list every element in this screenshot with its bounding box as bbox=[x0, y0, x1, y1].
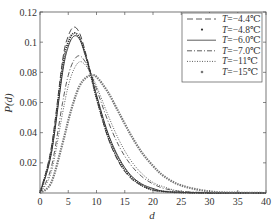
x-tick-label: 0 bbox=[38, 196, 43, 207]
legend-item-label: T=−4.8℃ bbox=[222, 25, 261, 35]
y-tick-label: 0.06 bbox=[20, 97, 38, 108]
x-axis-label: d bbox=[149, 209, 155, 221]
legend-item-label: T=−4.4℃ bbox=[222, 14, 261, 24]
x-tick-label: 35 bbox=[233, 196, 243, 207]
legend-item-label: T=−6.0℃ bbox=[222, 35, 261, 45]
x-tick-label: 40 bbox=[261, 196, 271, 207]
x-tick-label: 10 bbox=[92, 196, 102, 207]
legend-marker-icon bbox=[201, 29, 203, 31]
series-line-5 bbox=[40, 75, 266, 193]
y-tick-label: 0.1 bbox=[25, 37, 38, 48]
legend-marker-icon bbox=[201, 71, 204, 74]
legend: T=−4.4℃T=−4.8℃T=−6.0℃T=−7.0℃T=−11℃T=−15℃ bbox=[182, 13, 262, 82]
legend-item-label: T=−11℃ bbox=[222, 56, 258, 66]
y-tick-label: 0.02 bbox=[20, 157, 38, 168]
y-tick-label: 0.04 bbox=[20, 127, 38, 138]
legend-item-label: T=−15℃ bbox=[222, 67, 259, 77]
chart-canvas: 0510152025303540 0.020.040.060.080.10.12… bbox=[0, 0, 277, 224]
x-tick-label: 25 bbox=[176, 196, 186, 207]
y-axis-label: P(d) bbox=[2, 93, 15, 114]
legend-item-label: T=−7.0℃ bbox=[222, 46, 261, 56]
x-tick-label: 20 bbox=[148, 196, 158, 207]
y-tick-label: 0.12 bbox=[20, 7, 38, 18]
y-tick-label: 0.08 bbox=[20, 67, 38, 78]
x-tick-label: 30 bbox=[205, 196, 215, 207]
x-tick-label: 15 bbox=[120, 196, 130, 207]
x-tick-label: 5 bbox=[66, 196, 71, 207]
